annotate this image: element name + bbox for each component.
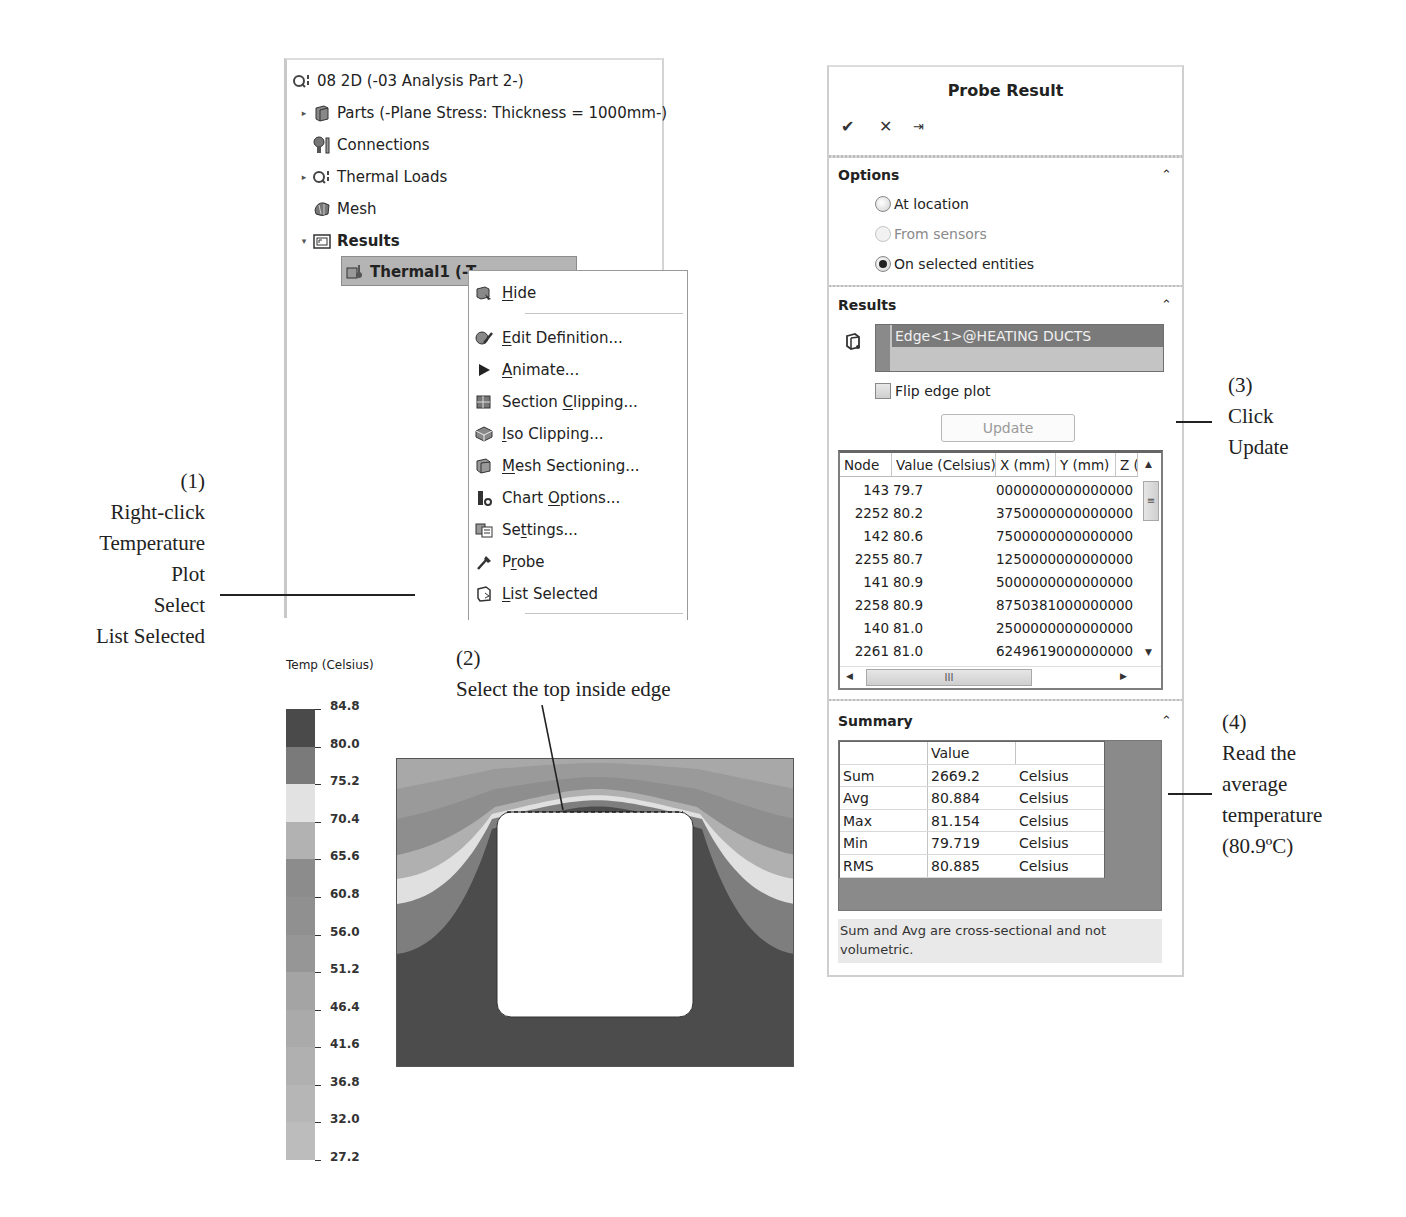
tree-item-results[interactable]: ▾ Results	[297, 226, 400, 256]
annotation-step-4: (4)Read theaveragetemperature(80.9ºC)	[1222, 707, 1382, 862]
legend-label: 27.2	[330, 1150, 360, 1164]
annotation-line: (2)	[456, 643, 776, 674]
annotation-line: average	[1222, 769, 1382, 800]
menu-item-mesh-sectioning[interactable]: Mesh Sectioning...	[469, 451, 687, 481]
scroll-thumb[interactable]: III	[866, 669, 1032, 686]
summary-area: Value Sum2669.2CelsiusAvg80.884CelsiusMa…	[838, 740, 1162, 911]
table-header: Node Value (Celsius) X (mm) Y (mm) Z (	[840, 453, 1138, 477]
menu-item-animate[interactable]: Animate...	[469, 355, 687, 385]
selected-entities-list[interactable]: Edge<1>@HEATING DUCTS	[875, 324, 1164, 372]
annotation-line: Click	[1228, 401, 1368, 432]
summary-header: Value	[840, 742, 1104, 765]
menu-item-section-clipping[interactable]: Section Clipping...	[469, 387, 687, 417]
annotation-line: Update	[1228, 432, 1368, 463]
table-row[interactable]: 14280.67500000000000000	[840, 525, 1134, 548]
legend-label: 65.6	[330, 849, 360, 863]
legend-tick	[315, 709, 321, 710]
legend-band	[286, 935, 315, 973]
collapse-caret-icon[interactable]: ⌃	[1161, 713, 1172, 728]
results-folder-icon	[311, 232, 333, 250]
study-icon	[291, 72, 313, 90]
tree-item-mesh[interactable]: Mesh	[311, 194, 377, 224]
scroll-left-arrow-icon[interactable]: ◀	[846, 671, 853, 681]
annotation-line: (4)	[1222, 707, 1382, 738]
collapse-caret-icon[interactable]: ⌃	[1161, 167, 1172, 182]
table-row[interactable]: 14081.02500000000000000	[840, 617, 1134, 640]
legend-label: 75.2	[330, 774, 360, 788]
menu-item-settings[interactable]: Settings...	[469, 515, 687, 545]
menu-separator	[525, 313, 683, 314]
legend-band	[286, 784, 315, 822]
ok-check-icon[interactable]: ✔	[841, 117, 854, 136]
tree-item-connections[interactable]: Connections	[311, 130, 430, 160]
update-button[interactable]: Update	[941, 414, 1075, 442]
tree-item-thermal-loads[interactable]: ▸ Thermal Loads	[297, 162, 447, 192]
radio-on-selected-entities[interactable]: On selected entities	[875, 253, 1034, 275]
annotation-line: List Selected	[40, 621, 205, 652]
legend-tick	[315, 1122, 321, 1123]
collapse-arrow-icon[interactable]: ▾	[297, 236, 311, 246]
menu-item-edit-definition[interactable]: Edit Definition...	[469, 323, 687, 353]
menu-item-list-selected[interactable]: List Selected	[469, 579, 687, 609]
legend-tick	[315, 859, 321, 860]
legend-band	[286, 709, 315, 747]
radio-at-location[interactable]: At location	[875, 193, 969, 215]
chart-options-icon	[469, 489, 499, 507]
legend-band	[286, 1085, 315, 1123]
menu-item-hide[interactable]: Hide	[469, 278, 687, 308]
menu-item-probe[interactable]: Probe	[469, 547, 687, 577]
annotation-step-2: (2)Select the top inside edge	[456, 643, 776, 705]
pin-icon[interactable]: ⇥	[913, 119, 924, 134]
selected-entity-edge[interactable]: Edge<1>@HEATING DUCTS	[892, 325, 1163, 347]
temperature-plot-viewport[interactable]	[396, 758, 794, 1067]
vertical-scrollbar[interactable]: ▲ ≡ ▼	[1141, 453, 1161, 665]
annotation-line: (1)	[40, 466, 205, 497]
mesh-icon	[311, 200, 333, 218]
legend-tick	[315, 972, 321, 973]
table-row[interactable]: 14180.95000000000000000	[840, 571, 1134, 594]
summary-row-sum: Sum2669.2Celsius	[840, 765, 1104, 788]
summary-row-avg: Avg80.884Celsius	[840, 787, 1104, 810]
horizontal-scrollbar[interactable]: ◀ III ▶	[840, 666, 1161, 688]
flip-edge-plot-checkbox[interactable]: Flip edge plot	[875, 383, 990, 399]
table-row[interactable]: 225580.71250000000000000	[840, 548, 1134, 571]
checkbox[interactable]	[875, 383, 891, 399]
legend-band	[286, 972, 315, 1010]
radio-button-disabled	[875, 226, 891, 242]
list-selected-icon	[469, 585, 499, 603]
legend-band	[286, 747, 315, 785]
table-row[interactable]: 225280.23750000000000000	[840, 502, 1134, 525]
contour-plot	[397, 759, 794, 1067]
leader-line-step-2	[540, 705, 570, 815]
settings-icon	[469, 521, 499, 539]
expand-arrow-icon[interactable]: ▸	[297, 108, 311, 118]
scroll-right-arrow-icon[interactable]: ▶	[1120, 671, 1127, 681]
scroll-up-arrow-icon[interactable]: ▲	[1145, 459, 1152, 469]
legend-band	[286, 859, 315, 897]
legend-band	[286, 822, 315, 860]
scroll-thumb[interactable]: ≡	[1143, 481, 1159, 521]
legend-label: 80.0	[330, 737, 360, 751]
section-clipping-icon	[469, 393, 499, 411]
probe-result-panel: Probe Result ✔ ✕ ⇥ Options ⌃ At location…	[827, 65, 1184, 977]
menu-item-iso-clipping[interactable]: Iso Clipping...	[469, 419, 687, 449]
table-row[interactable]: 225880.98750381000000000	[840, 594, 1134, 617]
tree-root-study[interactable]: 08 2D (-03 Analysis Part 2-)	[291, 66, 524, 96]
radio-button[interactable]	[875, 196, 891, 212]
scroll-down-arrow-icon[interactable]: ▼	[1145, 647, 1152, 657]
legend-tick	[315, 897, 321, 898]
table-row[interactable]: 226181.06249619000000000	[840, 640, 1134, 663]
expand-arrow-icon[interactable]: ▸	[297, 172, 311, 182]
radio-button-checked[interactable]	[875, 256, 891, 272]
collapse-caret-icon[interactable]: ⌃	[1161, 297, 1172, 312]
summary-row-max: Max81.154Celsius	[840, 810, 1104, 833]
tree-item-parts[interactable]: ▸ Parts (-Plane Stress: Thickness = 1000…	[297, 98, 667, 128]
cancel-x-icon[interactable]: ✕	[879, 117, 892, 136]
menu-separator	[525, 613, 683, 614]
legend-tick	[315, 1047, 321, 1048]
tree-root-label: 08 2D (-03 Analysis Part 2-)	[317, 72, 524, 90]
menu-item-chart-options[interactable]: Chart Options...	[469, 483, 687, 513]
table-row[interactable]: 14379.70000000000000000	[840, 479, 1134, 502]
summary-table: Value Sum2669.2CelsiusAvg80.884CelsiusMa…	[839, 741, 1105, 878]
mesh-sectioning-icon	[469, 457, 499, 475]
